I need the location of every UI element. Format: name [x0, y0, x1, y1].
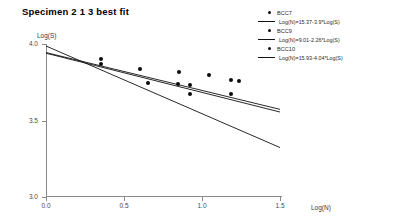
- chart-legend: BCC7Log(N)=15.37-3.9*Log(S)BCC9Log(N)=9.…: [258, 8, 406, 62]
- legend-equation-text: Log(N)=15.37-3.9*Log(S): [279, 19, 340, 25]
- legend-entry-equation: Log(N)=15.37-3.9*Log(S): [258, 17, 406, 26]
- data-point: [237, 79, 241, 83]
- data-point: [188, 92, 192, 96]
- legend-dot-icon: [268, 11, 271, 14]
- data-point: [207, 73, 211, 77]
- legend-entry-equation: Log(N)=15.93-4.04*Log(S): [258, 53, 406, 62]
- data-point: [99, 62, 103, 66]
- legend-line-icon: [258, 39, 275, 40]
- data-point: [229, 78, 233, 82]
- legend-entry-equation: Log(N)=9.01-2.26*Log(S): [258, 35, 406, 44]
- legend-entry-marker: BCC10: [258, 44, 406, 53]
- legend-line-icon: [258, 21, 275, 22]
- legend-label: BCC7: [277, 10, 292, 16]
- legend-dot-icon: [268, 29, 271, 32]
- legend-equation-text: Log(N)=9.01-2.26*Log(S): [279, 37, 340, 43]
- plot-area: [46, 44, 280, 197]
- chart-figure: Specimen 2 1 3 best fit Log(S) Log(N) 4.…: [0, 0, 409, 223]
- legend-label: BCC10: [277, 46, 295, 52]
- legend-line-icon: [258, 57, 275, 58]
- data-point: [229, 92, 233, 96]
- data-point: [176, 82, 180, 86]
- data-point: [146, 81, 150, 85]
- data-point: [177, 70, 181, 74]
- data-point: [138, 67, 142, 71]
- legend-entry-marker: BCC9: [258, 26, 406, 35]
- data-point: [99, 57, 103, 61]
- legend-label: BCC9: [277, 28, 292, 34]
- legend-entry-marker: BCC7: [258, 8, 406, 17]
- legend-dot-icon: [268, 47, 271, 50]
- legend-equation-text: Log(N)=15.93-4.04*Log(S): [279, 55, 343, 61]
- data-point: [188, 83, 192, 87]
